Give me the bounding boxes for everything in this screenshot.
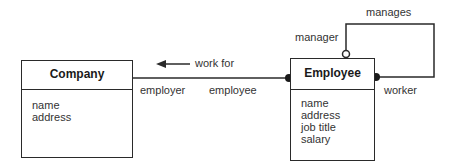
association-name-manages: manages [366,6,411,18]
role-employee: employee [209,84,257,96]
company-class-box[interactable]: Company name address [21,60,133,158]
role-worker: worker [384,84,417,96]
employee-attributes: name address job title salary [301,97,340,145]
employee-attribute: address [301,109,340,121]
company-attribute: address [32,111,71,123]
company-attribute: name [32,99,71,111]
left-arrow-icon [156,60,190,68]
role-employer: employer [140,84,185,96]
role-manager: manager [295,31,338,43]
employee-class-name: Employee [291,59,374,90]
association-name-works-for: work for [195,57,234,69]
company-attributes: name address [32,99,71,123]
optional-multiplicity-circle-icon [343,51,350,58]
employee-attribute: name [301,97,340,109]
employee-attribute: salary [301,133,340,145]
employee-class-box[interactable]: Employee name address job title salary [290,58,375,161]
employee-attribute: job title [301,121,340,133]
company-class-name: Company [22,61,132,90]
